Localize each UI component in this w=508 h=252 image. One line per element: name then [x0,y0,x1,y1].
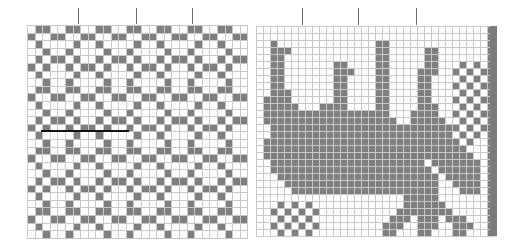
left-panel-tick-1 [78,8,79,24]
right-panel-tick-2 [358,8,359,25]
right-panel-tick-1 [302,8,303,25]
pattern-chart-page [0,0,508,252]
left-panel-geometric-repeat [0,0,254,252]
right-panel-grid-canvas [256,26,495,237]
right-panel-figurative-motif [254,0,508,252]
right-panel-tick-3 [416,8,417,25]
left-panel-tick-3 [192,8,193,24]
right-panel-edge-band [490,26,497,236]
left-panel-measure-rule [41,130,129,132]
left-panel-grid-canvas [27,25,248,239]
left-panel-tick-2 [136,8,137,24]
